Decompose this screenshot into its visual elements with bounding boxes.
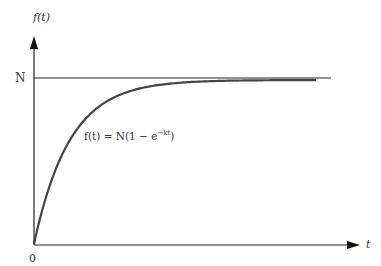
saturation-curve xyxy=(34,80,316,244)
equation-annotation: f(t) = N(1 − e−kt) xyxy=(84,129,174,142)
y-axis-label: f(t) xyxy=(33,11,50,24)
equation-exponent: −kt xyxy=(157,129,170,137)
origin-label: 0 xyxy=(29,252,36,265)
equation-close: ) xyxy=(170,130,174,142)
x-axis-label: t xyxy=(366,238,370,251)
x-axis-arrow-icon xyxy=(347,241,360,249)
chart-canvas xyxy=(0,0,381,266)
y-axis-arrow-icon xyxy=(30,36,38,49)
equation-text: f(t) = N(1 − e xyxy=(84,130,157,142)
asymptote-label: N xyxy=(15,71,26,85)
